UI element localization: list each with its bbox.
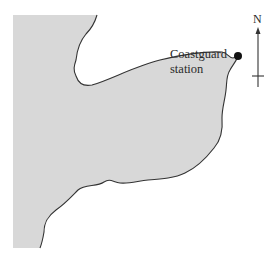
north-label: N <box>253 12 262 27</box>
station-label-line1: Coastguard <box>170 47 227 62</box>
coastguard-station-marker <box>234 52 242 60</box>
map-diagram <box>0 0 276 260</box>
coastguard-station-label: Coastguard station <box>170 47 227 77</box>
north-arrow <box>252 27 264 87</box>
station-label-line2: station <box>170 62 227 77</box>
